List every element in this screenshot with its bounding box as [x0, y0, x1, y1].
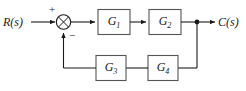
block-diagram-canvas: R(s) C(s) + − G1 G2 G3 G4	[0, 0, 246, 91]
block-g1-subscript: 1	[116, 21, 120, 30]
input-signal-label: R(s)	[3, 16, 23, 28]
output-signal-label: C(s)	[218, 16, 239, 28]
block-g1-label: G1	[98, 15, 130, 30]
summing-junction-plus-sign: +	[49, 4, 55, 15]
block-g4-subscript: 4	[165, 67, 169, 76]
block-g3-label: G3	[96, 61, 126, 76]
block-g2-subscript: 2	[167, 21, 171, 30]
block-diagram-svg	[0, 0, 246, 91]
block-g2-label: G2	[149, 15, 181, 30]
block-g3-subscript: 3	[113, 67, 117, 76]
summing-junction-minus-sign: −	[69, 30, 75, 41]
block-g4-label: G4	[148, 61, 178, 76]
